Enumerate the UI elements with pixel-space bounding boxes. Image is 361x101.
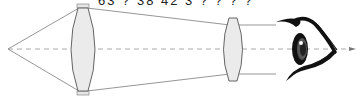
eyepiece-lens <box>224 18 243 81</box>
eye-icon <box>276 18 337 81</box>
optics-diagram <box>0 0 361 101</box>
objective-lens <box>71 4 95 95</box>
axis-arrow-icon <box>349 47 356 51</box>
